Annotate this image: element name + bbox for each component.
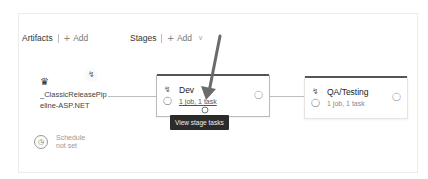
stages-header: Stages + Add ∨ [130,33,203,43]
pre-deployment-approvers-icon[interactable]: ◯ [311,98,320,107]
pre-deployment-conditions-icon[interactable]: ↯ [312,87,319,96]
add-stage-button[interactable]: + Add ∨ [167,33,203,43]
artifacts-label: Artifacts [22,33,53,43]
post-deployment-approvers-icon[interactable]: ◯ [392,92,401,101]
add-artifact-button[interactable]: + Add [64,33,89,43]
lightning-trigger-icon[interactable]: ↯ [84,68,98,82]
artifact-name-line1: _ClassicReleasePip [40,90,107,99]
connector-line [268,96,304,97]
stage-card-qa-testing[interactable]: ↯ ◯ QA/Testing 1 job, 1 task ◯ [304,77,408,119]
clock-icon: ◷ [34,135,48,149]
stage-topbar [305,76,407,78]
connector-line [108,96,156,97]
schedule-status: not set [56,142,77,149]
pre-deployment-conditions-icon[interactable]: ↯ [164,85,171,94]
artifact-name-line2: eline-ASP.NET [40,101,89,110]
add-stage-label: Add [177,33,192,43]
artifact-card[interactable]: ↯ ♛ _ClassicReleasePip eline-ASP.NET [28,68,100,124]
build-artifact-icon: ♛ [40,76,49,87]
stage-topbar [157,74,269,76]
tooltip: View stage tasks [170,115,229,130]
stage-card-dev[interactable]: ↯ ◯ Dev 1 job, 1 task ◯ [156,75,270,117]
stage-name: Dev [179,85,194,95]
artifacts-header: Artifacts + Add [22,33,88,43]
chevron-down-icon[interactable]: ∨ [198,34,203,42]
plus-icon: + [64,34,70,42]
pre-deployment-buttons[interactable]: ↯ ◯ [309,86,321,108]
stages-label: Stages [130,33,156,43]
add-artifact-label: Add [73,33,88,43]
divider [58,34,59,43]
view-stage-tasks-link[interactable]: 1 job, 1 task [179,98,217,105]
schedule-trigger[interactable]: ◷ Schedule not set [34,134,85,150]
post-deployment-approvers-icon[interactable]: ◯ [254,90,263,99]
pre-deployment-buttons[interactable]: ↯ ◯ [161,84,173,106]
plus-icon: + [167,34,173,42]
stage-summary[interactable]: 1 job, 1 task [327,100,365,107]
pre-deployment-approvers-icon[interactable]: ◯ [163,96,172,105]
stage-name: QA/Testing [327,87,369,97]
schedule-label: Schedule [56,134,85,141]
artifact-name[interactable]: _ClassicReleasePip eline-ASP.NET [40,89,108,111]
divider [161,34,162,43]
